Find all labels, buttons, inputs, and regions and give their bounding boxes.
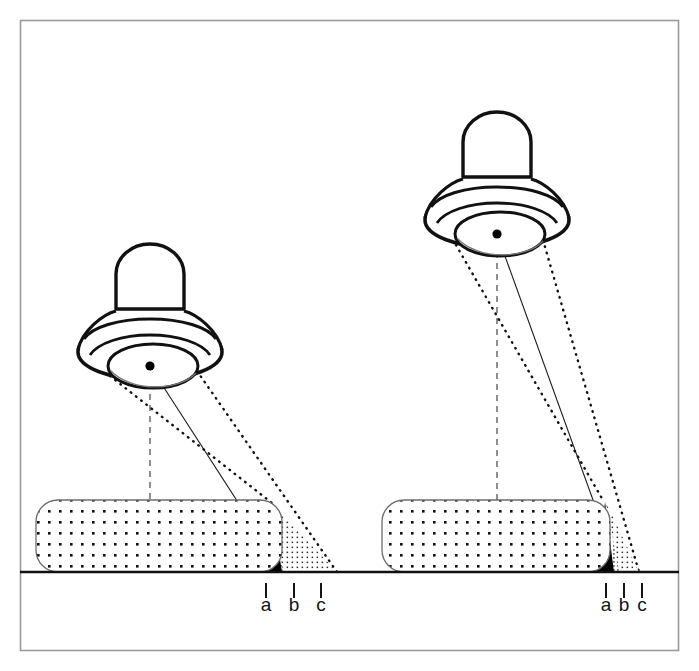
right-block-shape bbox=[382, 500, 610, 572]
right-light-source-point bbox=[492, 229, 501, 238]
left-label-c: c bbox=[316, 594, 326, 615]
shadow-formation-diagram: a b c a b c bbox=[0, 0, 699, 671]
left-light-source-point bbox=[145, 361, 154, 370]
right-label-a: a bbox=[601, 594, 612, 615]
object-block-left bbox=[36, 500, 282, 572]
right-lamp-housing bbox=[463, 112, 531, 177]
figure-root: a b c a b c bbox=[0, 0, 699, 671]
right-label-c: c bbox=[637, 594, 647, 615]
left-block-shape bbox=[36, 500, 282, 572]
object-block-right bbox=[382, 500, 610, 572]
left-lamp-housing bbox=[116, 244, 184, 309]
left-label-b: b bbox=[289, 594, 300, 615]
left-label-a: a bbox=[261, 594, 272, 615]
right-label-b: b bbox=[619, 594, 630, 615]
